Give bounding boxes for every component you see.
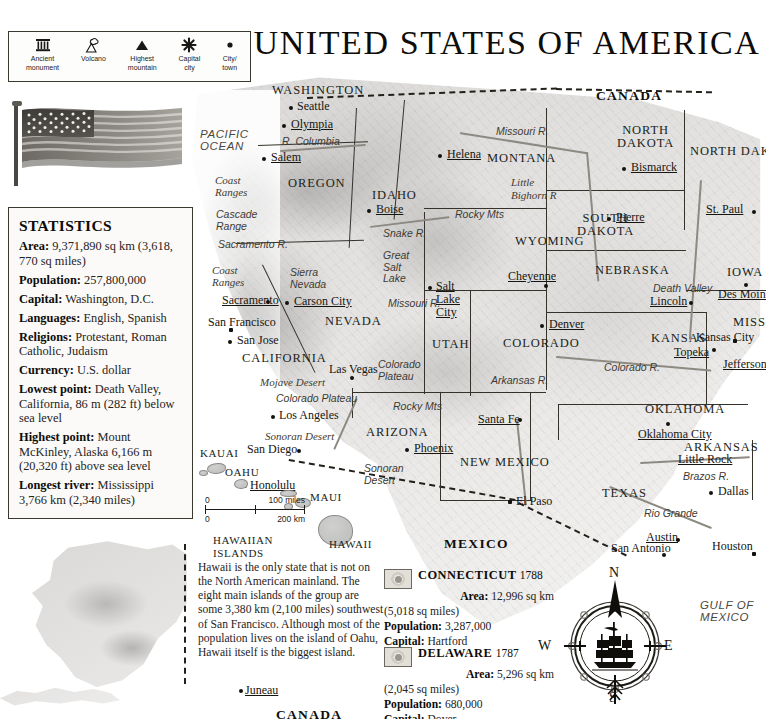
label-gulf-of-mexico: GULF OF MEXICO <box>700 600 754 623</box>
label-pacific-ocean: PACIFIC OCEAN <box>200 129 249 152</box>
legend-item-volcano[interactable]: Volcano <box>70 36 117 64</box>
label-city-salem: Salem <box>271 151 301 163</box>
label-state-washington: WASHINGTON <box>272 84 364 97</box>
border-ok-tx-panhandle <box>558 404 559 440</box>
state-card-delaware-year: 1787 <box>496 647 519 659</box>
stat-population-label: Population: <box>19 273 81 287</box>
label-state-montana: MONTANA <box>487 152 556 165</box>
label-red-river: Brazos R. <box>683 471 729 482</box>
state-card-connecticut-population-label: Population: <box>384 620 442 633</box>
city-marker-lincoln <box>689 301 693 305</box>
city-marker-salem <box>262 157 266 161</box>
stat-currency-label: Currency: <box>19 363 74 377</box>
label-missouri-river-north: Missouri R. <box>496 126 549 137</box>
scale-hawaii-miles: 100 miles <box>269 495 305 505</box>
label-city-jefferson: Jefferson <box>723 358 766 370</box>
city-marker-olympia <box>282 124 286 128</box>
label-city-las-vegas: Las Vegas <box>329 363 378 375</box>
label-cascade-range: Cascade Range <box>216 208 257 232</box>
city-marker-boise <box>367 209 371 213</box>
label-city-pierre: Pierre <box>616 211 645 223</box>
label-city-santa-fe: Santa Fe <box>478 413 520 425</box>
label-state-oregon: OREGON <box>288 177 345 190</box>
city-marker-helena <box>438 154 442 158</box>
label-city-san-antonio: San Antonio <box>611 542 671 554</box>
scale-hawaii-km-row: 0 200 km <box>205 514 305 524</box>
border-ut-az <box>352 392 472 393</box>
state-card-delaware-population: Population: 680,000 <box>384 698 560 712</box>
city-marker-phoenix <box>405 448 409 452</box>
connecticut-seal-icon <box>384 569 412 589</box>
label-city-des-moine: Des Moine <box>718 288 766 300</box>
label-state-oklahoma: OKLAHOMA <box>645 403 725 416</box>
stat-currency-value: U.S. dollar <box>77 363 131 377</box>
state-card-delaware-capital-label: Capital: <box>384 713 425 719</box>
state-card-delaware-area-value: 5,296 sq km <box>497 668 554 681</box>
label-brazos-river: Rio Grande <box>644 508 698 519</box>
state-card-delaware-capital: Capital: Dover <box>384 713 560 719</box>
border-nd-mn <box>684 110 685 230</box>
island-kauai <box>207 463 226 474</box>
label-city-san-jose: San Jose <box>237 334 279 346</box>
label-river-columbia: R. Columbia <box>282 136 340 147</box>
stat-lowest-point: Lowest point: Death Valley, California, … <box>19 382 183 426</box>
alaska-terrain <box>14 538 194 700</box>
stat-population-value: 257,800,000 <box>84 273 146 287</box>
scale-hawaii-km: 200 km <box>277 514 305 524</box>
stat-capital: Capital: Washington, D.C. <box>19 292 183 307</box>
label-great-basin: Missouri R. <box>388 298 441 309</box>
city-marker-los-angeles <box>271 415 275 419</box>
label-state-nevada: NEVADA <box>325 315 382 328</box>
label-coast-ranges-south: Coast Ranges <box>212 264 244 289</box>
label-city-dallas: Dallas <box>718 485 749 497</box>
scale-hawaii-zero-2: 0 <box>205 514 210 524</box>
label-island-hawaii: HAWAII <box>329 539 372 550</box>
statistics-heading: STATISTICS <box>19 217 183 235</box>
compass-west-label: W <box>538 638 551 654</box>
city-marker-pierre <box>607 217 611 221</box>
legend-item-city-town[interactable]: City/ town <box>211 36 248 73</box>
scale-bar-hawaii: 0 100 miles 0 200 km <box>205 495 305 524</box>
state-card-delaware-head: DELAWARE 1787 <box>384 645 560 667</box>
capital-city-icon <box>169 36 211 53</box>
label-city-phoenix: Phoenix <box>414 442 453 454</box>
state-card-delaware-population-value: 680,000 <box>445 698 483 711</box>
label-island-maui: MAUI <box>310 492 342 503</box>
city-marker-cheyenne <box>544 284 548 288</box>
city-marker-topeka <box>712 348 716 352</box>
label-city-san-francisco: San Francisco <box>208 316 276 328</box>
state-card-connecticut-area: Area: 12,996 sq km <box>384 590 560 604</box>
hawaii-note: Hawaii is the only state that is not on … <box>198 561 384 660</box>
label-city-cheyenne: Cheyenne <box>508 270 556 282</box>
island-niihau <box>199 470 208 476</box>
delaware-seal-icon <box>384 647 412 667</box>
label-city-bismarck: Bismarck <box>631 161 677 173</box>
label-country-mexico: MEXICO <box>444 537 509 551</box>
label-state-utah: UTAH <box>432 338 469 351</box>
ancient-monument-icon <box>16 36 69 53</box>
legend-item-capital-city[interactable]: Capital city <box>168 36 212 73</box>
stat-highest-point-label: Highest point: <box>19 430 94 444</box>
state-card-connecticut-area-alt: (5,018 sq miles) <box>384 605 560 619</box>
label-island-kauai: KAUAI <box>200 448 238 459</box>
label-death-valley: Mojave Desert <box>260 377 325 388</box>
state-card-connecticut-title: CONNECTICUT 1788 <box>418 567 543 583</box>
city-marker-salt-lake-city <box>428 286 432 290</box>
state-card-connecticut-head: CONNECTICUT 1788 <box>384 567 560 589</box>
label-city-sacramento: Sacramento <box>222 294 279 306</box>
city-marker-bismarck <box>622 167 626 171</box>
label-rocky-mts-south: Arkansas R. <box>491 375 548 386</box>
stat-currency: Currency: U.S. dollar <box>19 363 183 378</box>
legend-item-ancient-monument[interactable]: Ancient monument <box>15 36 70 73</box>
state-card-delaware-area-alt: (2,045 sq miles) <box>384 683 560 697</box>
compass-east-label: E <box>664 638 673 654</box>
city-marker-seattle <box>289 106 293 110</box>
label-city-carson-city: Carson City <box>294 295 352 307</box>
stat-area-label: Area: <box>19 239 49 253</box>
legend-item-highest-mountain[interactable]: Highest mountain <box>117 36 168 73</box>
label-state-arizona: ARIZONA <box>366 426 429 439</box>
label-city-oklahoma-city: Oklahoma City <box>638 428 712 440</box>
city-marker-las-vegas <box>350 376 354 380</box>
label-state-california: CALIFORNIA <box>242 352 327 365</box>
label-state-north-dakota: NORTH DAKOTA <box>617 124 674 149</box>
